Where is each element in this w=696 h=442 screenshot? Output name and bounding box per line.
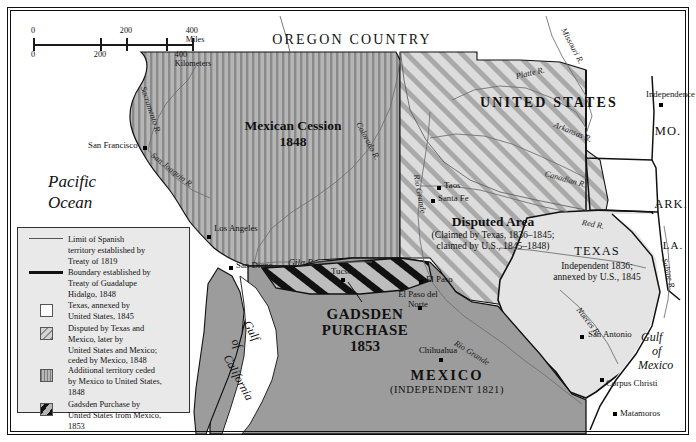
legend-line: 1853 [68,422,161,433]
legend-line: Additional territory ceded [68,366,162,377]
label-city-san-francisco: San Francisco [88,141,138,151]
map-legend: Limit of Spanish territory established b… [17,227,190,413]
legend-symbol-diagonal-box [24,324,68,340]
label-mexican-cession: Mexican Cession [244,118,341,133]
legend-line: Hidalgo, 1848 [68,290,151,301]
scale-bar: 0 200 400 Miles 0 200 400 Kilometers [27,26,202,62]
scale-km-400: 400 Kilometers [175,50,211,68]
legend-symbol-black-diagonal-box [24,400,68,416]
label-texas-sub2: annexed by U.S., 1845 [553,272,640,283]
legend-item-disputed: Disputed by Texas and Mexico, later by U… [24,324,157,367]
label-texas: TEXAS [574,244,619,258]
legend-item-guadalupe-boundary: Boundary established by Treaty of Guadal… [24,268,151,300]
label-disputed-area-sub2: claimed by U.S., 1845–1848) [437,241,550,252]
city-dot-san-antonio [580,335,584,339]
label-city-san-antonio: San Antonio [588,330,632,340]
label-city-independence: Independence [646,90,695,100]
label-gadsden-purchase-1: GADSDEN [327,306,404,323]
label-state-la: LA. [663,239,683,251]
label-city-el-paso-del-norte: El Paso del Norte [395,289,441,309]
legend-text-spanish-limit: Limit of Spanish territory established b… [68,235,145,267]
legend-line: Mexico, later by [68,335,157,346]
legend-item-spanish-limit: Limit of Spanish territory established b… [24,235,145,267]
legend-item-texas-annexed: Texas, annexed by United States, 1845 [24,301,134,323]
scale-miles-200: 200 [120,26,132,35]
label-gadsden-purchase-2: PURCHASE [322,322,409,339]
label-disputed-area: Disputed Area [452,214,535,229]
legend-symbol-vertical-box [24,366,68,382]
city-dot-independence [659,103,663,107]
label-city-taos: Taos [444,181,461,191]
city-dot-santa-fe [431,199,435,203]
scale-km-200: 200 [94,50,106,59]
label-mexico: MEXICO [410,367,483,383]
label-oregon-country: OREGON COUNTRY [272,32,432,48]
legend-line: Treaty of Guadalupe [68,279,151,290]
scale-miles-0: 0 [31,26,35,35]
label-city-los-angeles: Los Angeles [214,224,258,234]
label-city-corpus-christi: Corpus Christi [606,379,658,389]
legend-item-gadsden: Gadsden Purchase by United States from M… [24,400,161,432]
label-state-ark: ARK. [654,197,688,211]
city-dot-corpus-christi [600,378,604,382]
legend-symbol-thin-line [24,235,68,239]
city-dot-san-francisco [143,146,147,150]
legend-text-disputed: Disputed by Texas and Mexico, later by U… [68,324,157,367]
label-gadsden-purchase-year: 1853 [350,338,380,355]
legend-line: United States and Mexico; [68,346,157,357]
label-pacific-ocean-line2: Ocean [48,193,92,213]
city-dot-el-paso [419,280,423,284]
label-city-tucson: Tucson [331,267,357,277]
label-gulf-of-mexico-line2: of [652,344,661,359]
legend-text-guadalupe-boundary: Boundary established by Treaty of Guadal… [68,268,151,300]
legend-text-texas-annexed: Texas, annexed by United States, 1845 [68,301,134,323]
label-mexico-sub: (INDEPENDENT 1821) [390,384,504,396]
label-pacific-ocean-line1: Pacific [48,172,96,192]
legend-line: United States, 1845 [68,312,134,323]
legend-line: 1848 [68,388,162,399]
city-dot-tucson [341,278,345,282]
legend-line: territory established by [68,246,145,257]
legend-line: Texas, annexed by [68,301,134,312]
legend-line: Gadsden Purchase by [68,400,161,411]
legend-line: United States from Mexico, [68,411,161,422]
label-city-el-paso: El Paso [426,275,453,285]
label-gulf-of-mexico-line1: Gulf [641,330,662,345]
historical-map: 0 200 400 Miles 0 200 400 Kilometers ORE… [0,0,696,442]
label-gulf-of-mexico-line3: Mexico [638,358,673,373]
legend-text-gadsden: Gadsden Purchase by United States from M… [68,400,161,432]
label-city-chihuahua: Chihuahua [419,346,457,356]
scale-bar-line [33,44,193,46]
city-dot-los-angeles [207,235,211,239]
label-united-states: UNITED STATES [480,95,618,111]
legend-text-additional-ceded: Additional territory ceded by Mexico to … [68,366,162,398]
city-dot-san-diego [229,266,233,270]
label-mexican-cession-year: 1848 [280,134,307,149]
label-city-san-diego: San Diego [236,261,273,271]
label-city-matamoros: Matamoros [620,409,660,419]
label-state-mo: MO. [655,124,681,138]
legend-symbol-white-box [24,301,68,317]
legend-item-additional-ceded: Additional territory ceded by Mexico to … [24,366,162,398]
scale-km-0: 0 [31,50,35,59]
legend-line: Boundary established by [68,268,151,279]
city-dot-chihuahua [439,358,443,362]
legend-line: Limit of Spanish [68,235,145,246]
label-city-santa-fe: Santa Fe [438,194,469,204]
legend-symbol-thick-line [24,268,68,274]
legend-line: Treaty of 1819 [68,257,145,268]
label-river-gila: Gila R. [288,258,315,269]
legend-line: Disputed by Texas and [68,324,157,335]
legend-line: by Mexico to United States, [68,377,162,388]
city-dot-taos [437,186,441,190]
city-dot-matamoros [613,412,617,416]
scale-miles-400: 400 Miles [186,26,205,44]
